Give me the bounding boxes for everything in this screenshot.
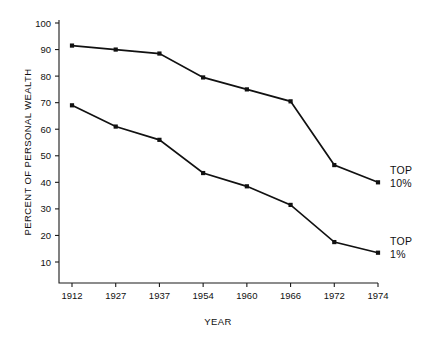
y-tick-label: 90 [40, 44, 51, 55]
x-tick-label: 1972 [324, 290, 345, 301]
chart-canvas: 102030405060708090100 191219271937195419… [0, 0, 421, 339]
data-point-marker [114, 124, 118, 128]
data-point-marker [157, 51, 161, 55]
x-tick-label: 1912 [61, 290, 82, 301]
series-line-2 [72, 105, 378, 252]
x-axis-title: YEAR [204, 316, 231, 327]
data-point-marker [70, 43, 74, 47]
y-tick-label: 100 [35, 18, 51, 29]
x-tick-label: 1954 [193, 290, 214, 301]
data-point-marker [114, 47, 118, 51]
data-point-marker [288, 99, 292, 103]
series-line-1 [72, 46, 378, 183]
y-tick-label: 70 [40, 97, 51, 108]
y-tick-label: 80 [40, 71, 51, 82]
y-tick-label: 50 [40, 150, 51, 161]
data-point-marker [70, 103, 74, 107]
x-tick-label: 1960 [236, 290, 257, 301]
data-point-marker [157, 138, 161, 142]
data-point-marker [288, 203, 292, 207]
series-label-top-2: TOP [390, 235, 412, 247]
x-tick-label: 1974 [367, 290, 388, 301]
y-axis-title: PERCENT OF PERSONAL WEALTH [22, 68, 33, 235]
data-point-marker [201, 171, 205, 175]
x-axis-ticks: 19121927193719541960196619721974 [61, 283, 388, 301]
axes-group [59, 20, 378, 283]
x-tick-label: 1966 [280, 290, 301, 301]
data-point-marker [376, 251, 380, 255]
data-point-marker [332, 240, 336, 244]
series-labels-group: TOP10%TOP1% [390, 164, 412, 259]
y-tick-label: 10 [40, 257, 51, 268]
y-axis-ticks: 102030405060708090100 [35, 18, 59, 268]
data-point-marker [332, 163, 336, 167]
axis-frame [59, 20, 378, 283]
series-label-pct-1: 10% [390, 177, 412, 189]
y-tick-label: 60 [40, 124, 51, 135]
wealth-distribution-chart: 102030405060708090100 191219271937195419… [0, 0, 421, 339]
data-series-group [70, 43, 380, 254]
data-point-marker [201, 75, 205, 79]
y-tick-label: 40 [40, 177, 51, 188]
series-label-pct-2: 1% [390, 248, 406, 260]
series-label-top-1: TOP [390, 164, 412, 176]
data-point-marker [245, 87, 249, 91]
y-tick-label: 30 [40, 203, 51, 214]
data-point-marker [376, 180, 380, 184]
x-tick-label: 1937 [149, 290, 170, 301]
x-tick-label: 1927 [105, 290, 126, 301]
data-point-marker [245, 184, 249, 188]
y-tick-label: 20 [40, 230, 51, 241]
